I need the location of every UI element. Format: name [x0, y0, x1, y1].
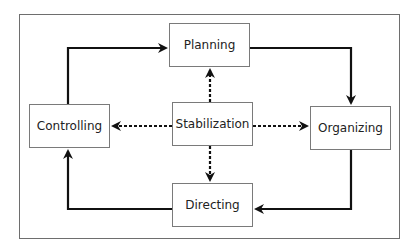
node-label: Directing [185, 198, 240, 212]
node-organizing: Organizing [310, 106, 391, 150]
arrow-organizing-to-directing [256, 150, 351, 209]
arrow-planning-to-organizing [250, 48, 351, 103]
node-directing: Directing [172, 183, 253, 227]
node-label: Organizing [318, 121, 383, 135]
node-label: Stabilization [176, 117, 250, 131]
arrow-directing-to-controlling [68, 151, 172, 209]
node-planning: Planning [169, 23, 250, 67]
node-stabilization: Stabilization [172, 102, 253, 146]
node-label: Controlling [37, 119, 102, 133]
arrow-controlling-to-planning [68, 48, 166, 104]
node-label: Planning [184, 38, 236, 52]
node-controlling: Controlling [29, 104, 110, 148]
